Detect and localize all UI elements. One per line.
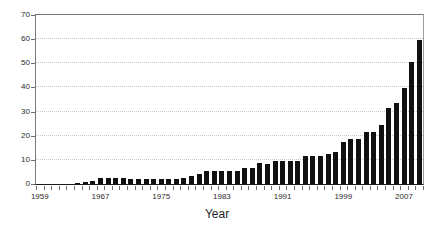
x-axis-tick-mark: [264, 186, 265, 190]
bar: [90, 181, 95, 184]
x-axis-tick-mark: [36, 186, 37, 190]
bar: [113, 178, 118, 184]
x-axis-tick-mark: [165, 186, 166, 190]
x-axis-tick-mark: [82, 186, 83, 190]
bar: [106, 178, 111, 184]
bar: [318, 156, 323, 184]
x-axis-tick-mark: [362, 186, 363, 190]
y-axis-tick-mark: [31, 112, 35, 113]
bar-chart: Year 01020304050607019591967197519831991…: [0, 0, 434, 231]
x-axis-tick-mark: [332, 186, 333, 190]
x-axis-tick-mark: [142, 186, 143, 190]
bar: [409, 62, 414, 184]
x-axis-tick-mark: [241, 186, 242, 190]
x-axis-tick-mark: [195, 186, 196, 190]
x-axis-tick-mark: [59, 186, 60, 190]
bar: [250, 168, 255, 184]
x-axis-tick-mark: [104, 186, 105, 190]
x-axis-tick-mark: [377, 186, 378, 190]
x-axis-tick-mark: [89, 186, 90, 190]
y-axis-tick-label: 10: [2, 156, 30, 164]
x-axis-tick-label: 2007: [384, 192, 424, 201]
x-axis-tick-label: 1991: [263, 192, 303, 201]
bar: [242, 168, 247, 184]
bar: [159, 179, 164, 184]
x-axis-tick-mark: [180, 186, 181, 190]
x-axis-tick-label: 1975: [141, 192, 181, 201]
x-axis-tick-mark: [51, 186, 52, 190]
bar: [235, 171, 240, 184]
x-axis-tick-mark: [74, 186, 75, 190]
x-axis-tick-mark: [188, 186, 189, 190]
bar: [166, 179, 171, 184]
y-axis-tick-mark: [31, 184, 35, 185]
x-axis-tick-mark: [271, 186, 272, 190]
bar: [341, 142, 346, 184]
y-axis-tick-label: 40: [2, 83, 30, 91]
y-axis-tick-label: 50: [2, 59, 30, 67]
bar: [394, 103, 399, 184]
bar: [204, 171, 209, 184]
plot-area: [35, 14, 424, 185]
x-axis-tick-mark: [309, 186, 310, 190]
x-axis-tick-mark: [218, 186, 219, 190]
bar: [219, 171, 224, 184]
x-axis-tick-mark: [294, 186, 295, 190]
bar: [288, 161, 293, 184]
x-axis-tick-mark: [226, 186, 227, 190]
bars-layer: [36, 15, 423, 184]
bar: [212, 171, 217, 184]
bar: [98, 178, 103, 184]
y-axis-tick-label: 20: [2, 132, 30, 140]
bar: [348, 139, 353, 184]
x-axis-tick-mark: [173, 186, 174, 190]
x-axis-tick-mark: [157, 186, 158, 190]
x-axis-tick-mark: [127, 186, 128, 190]
bar: [136, 179, 141, 184]
y-axis-tick-mark: [31, 15, 35, 16]
x-axis-tick-mark: [324, 186, 325, 190]
x-axis-tick-mark: [248, 186, 249, 190]
x-axis-tick-mark: [423, 186, 424, 190]
bar: [417, 40, 422, 184]
x-axis-tick-label: 1999: [323, 192, 363, 201]
bar: [295, 161, 300, 184]
x-axis-tick-mark: [44, 186, 45, 190]
x-axis-tick-mark: [135, 186, 136, 190]
x-axis-tick-mark: [393, 186, 394, 190]
x-axis-tick-mark: [203, 186, 204, 190]
x-axis-tick-mark: [112, 186, 113, 190]
x-axis-tick-mark: [256, 186, 257, 190]
x-axis-tick-mark: [408, 186, 409, 190]
bar: [273, 161, 278, 184]
x-axis-tick-mark: [415, 186, 416, 190]
bar: [151, 179, 156, 184]
y-axis-tick-mark: [31, 136, 35, 137]
y-axis-tick-mark: [31, 87, 35, 88]
bar: [121, 178, 126, 184]
bar: [386, 108, 391, 184]
bar: [83, 182, 88, 184]
y-axis-tick-mark: [31, 160, 35, 161]
bar: [364, 132, 369, 184]
bar: [371, 132, 376, 184]
x-axis-tick-mark: [400, 186, 401, 190]
bar: [326, 154, 331, 184]
bar: [402, 88, 407, 184]
x-axis-tick-label: 1983: [202, 192, 242, 201]
x-axis-tick-mark: [302, 186, 303, 190]
bar: [280, 161, 285, 184]
x-axis-tick-mark: [355, 186, 356, 190]
bar: [310, 156, 315, 184]
x-axis-tick-mark: [317, 186, 318, 190]
bar: [333, 152, 338, 184]
bar: [303, 156, 308, 184]
y-axis-tick-label: 0: [2, 180, 30, 188]
y-axis-tick-mark: [31, 63, 35, 64]
x-axis-tick-label: 1959: [20, 192, 60, 201]
x-axis-tick-mark: [233, 186, 234, 190]
x-axis-tick-mark: [279, 186, 280, 190]
x-axis-tick-mark: [347, 186, 348, 190]
bar: [75, 183, 80, 184]
x-axis-tick-mark: [385, 186, 386, 190]
